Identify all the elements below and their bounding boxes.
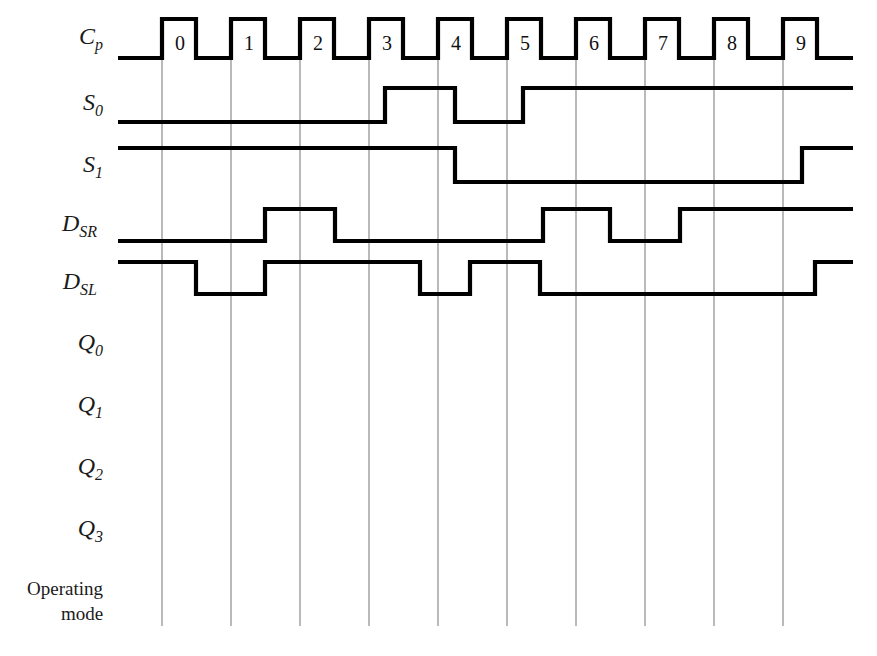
clock-pulse-number-2: 2 (313, 32, 323, 54)
waveform-data-shift-right (118, 209, 853, 241)
signal-label-select-0: S0 (83, 89, 103, 119)
signal-labels: CpS0S1DSRDSLQ0Q1Q2Q3 (61, 23, 103, 545)
signal-label-data-shift-right: DSR (61, 210, 97, 240)
signal-label-output-q1: Q1 (78, 391, 103, 421)
waveform-clock (118, 19, 853, 58)
clock-pulse-number-4: 4 (451, 32, 461, 54)
signal-label-clock: Cp (79, 23, 103, 54)
clock-pulse-number-8: 8 (727, 32, 737, 54)
operating-mode-label: Operatingmode (27, 578, 103, 624)
clock-pulse-number-5: 5 (520, 32, 530, 54)
operating-mode-label-line1: Operating (27, 578, 103, 599)
clock-pulse-number-3: 3 (382, 32, 392, 54)
clock-pulse-number-0: 0 (175, 32, 185, 54)
waveform-data-shift-left (118, 262, 853, 294)
clock-pulse-number-6: 6 (589, 32, 599, 54)
clock-pulse-number-1: 1 (244, 32, 254, 54)
waveforms (118, 19, 853, 294)
waveform-select-0 (118, 88, 853, 122)
waveform-select-1 (118, 148, 853, 182)
signal-label-output-q2: Q2 (78, 453, 103, 483)
timing-diagram-canvas: CpS0S1DSRDSLQ0Q1Q2Q3 0123456789 Operatin… (0, 0, 877, 656)
timing-diagram: CpS0S1DSRDSLQ0Q1Q2Q3 0123456789 Operatin… (0, 0, 877, 656)
clock-pulse-number-7: 7 (658, 32, 668, 54)
signal-label-select-1: S1 (83, 151, 103, 181)
signal-label-data-shift-left: DSL (62, 268, 97, 298)
signal-label-output-q3: Q3 (78, 515, 103, 545)
signal-label-output-q0: Q0 (78, 329, 103, 359)
clock-pulse-numbers: 0123456789 (175, 32, 806, 54)
operating-mode-label-line2: mode (61, 603, 103, 624)
clock-pulse-number-9: 9 (796, 32, 806, 54)
gridlines (162, 58, 783, 626)
